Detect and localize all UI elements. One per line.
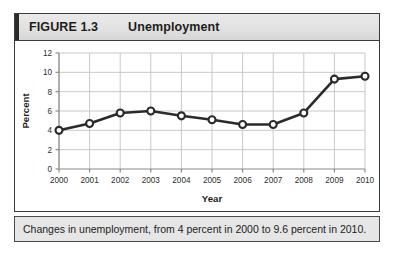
x-tick-2001: 2001: [80, 176, 99, 185]
x-tick-2007: 2007: [264, 176, 283, 185]
x-tick-2002: 2002: [111, 176, 130, 185]
x-axis-title: Year: [202, 193, 223, 204]
data-point-2009: [331, 76, 338, 83]
x-tick-2004: 2004: [172, 176, 191, 185]
y-tick-6: 6: [47, 107, 52, 116]
y-tick-8: 8: [47, 88, 52, 97]
figure-number-label: FIGURE 1.3: [29, 20, 98, 34]
figure-title: Unemployment: [128, 20, 220, 34]
grid-lines: [59, 53, 365, 169]
data-point-2003: [147, 108, 154, 115]
data-point-2006: [239, 121, 246, 128]
x-tick-2005: 2005: [203, 176, 222, 185]
data-point-2001: [86, 120, 93, 127]
y-tick-12: 12: [43, 49, 53, 58]
data-point-2010: [362, 73, 369, 80]
x-axis-tick-labels: 2000200120022003200420052006200720082009…: [50, 176, 375, 185]
figure-caption-box: Changes in unemployment, from 4 percent …: [14, 216, 380, 242]
unemployment-line-chart: 024681012 200020012002200320042005200620…: [15, 41, 379, 210]
y-tick-4: 4: [47, 126, 52, 135]
x-tick-2009: 2009: [325, 176, 344, 185]
y-tick-10: 10: [43, 68, 53, 77]
y-tick-0: 0: [47, 165, 52, 174]
x-tick-2008: 2008: [295, 176, 314, 185]
data-point-2004: [178, 112, 185, 119]
figure-container: FIGURE 1.3 Unemployment 024681012 200020…: [14, 13, 380, 256]
data-point-2007: [270, 121, 277, 128]
x-tick-2000: 2000: [50, 176, 69, 185]
y-axis-title: Percent: [20, 93, 31, 129]
y-axis-tick-labels: 024681012: [43, 49, 53, 174]
y-tick-2: 2: [47, 146, 52, 155]
x-tick-2003: 2003: [142, 176, 161, 185]
chart-panel: 024681012 200020012002200320042005200620…: [14, 41, 380, 212]
axis-lines: [56, 53, 366, 173]
x-tick-2006: 2006: [233, 176, 252, 185]
data-point-2002: [117, 109, 124, 116]
figure-caption-text: Changes in unemployment, from 4 percent …: [23, 223, 366, 235]
figure-header: FIGURE 1.3 Unemployment: [14, 13, 380, 41]
data-point-2005: [209, 116, 216, 123]
data-point-2000: [56, 127, 63, 134]
x-tick-2010: 2010: [356, 176, 375, 185]
data-point-2008: [300, 109, 307, 116]
